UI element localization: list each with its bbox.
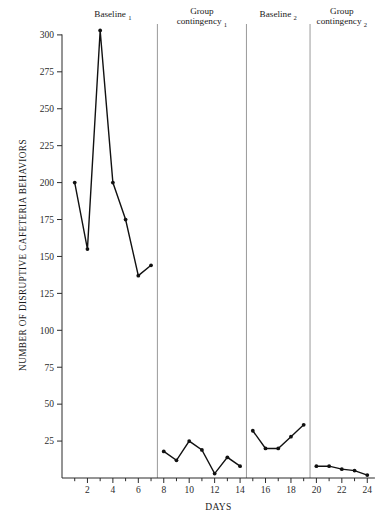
phase-label-1: Baseline 1 (94, 9, 131, 21)
phase-label-3: Baseline 2 (260, 9, 297, 21)
data-point-day-7 (149, 263, 153, 267)
data-point-day-13 (225, 455, 229, 459)
x-tick-label-18: 18 (286, 485, 296, 495)
data-point-day-19 (302, 423, 306, 427)
y-axis-title: NUMBER OF DISRUPTIVE CAFETERIA BEHAVIORS (18, 139, 28, 371)
x-tick-label-20: 20 (312, 485, 322, 495)
phase-label-subscript: 2 (364, 21, 367, 28)
phase-label-subscript: 2 (294, 14, 297, 21)
x-tick-label-12: 12 (210, 485, 220, 495)
y-tick-label-25: 25 (45, 436, 55, 446)
data-point-day-10 (187, 439, 191, 443)
y-tick-label-150: 150 (40, 252, 55, 262)
data-point-day-3 (98, 29, 102, 33)
data-point-day-18 (289, 435, 293, 439)
phase-label-base2: contingency (317, 16, 364, 26)
data-point-day-14 (238, 464, 242, 468)
data-point-day-12 (213, 472, 217, 476)
data-point-day-20 (315, 464, 319, 468)
x-tick-label-8: 8 (161, 485, 166, 495)
x-tick-label-16: 16 (261, 485, 271, 495)
data-point-day-9 (175, 458, 179, 462)
y-tick-label-175: 175 (40, 215, 55, 225)
data-point-day-6 (136, 274, 140, 278)
phase-label-subscript: 1 (128, 14, 131, 21)
phase-label-base2: contingency (177, 16, 224, 26)
data-point-day-11 (200, 448, 204, 452)
y-tick-label-300: 300 (40, 30, 55, 40)
phase-label-2-line1: Group (190, 6, 214, 16)
x-tick-label-10: 10 (184, 485, 194, 495)
data-point-day-5 (124, 218, 128, 222)
data-point-day-22 (340, 467, 344, 471)
x-tick-label-24: 24 (363, 485, 373, 495)
data-point-day-2 (86, 247, 90, 251)
phase-label-4-line1: Group (330, 6, 354, 16)
phase-label-2-line2: contingency 1 (177, 16, 228, 28)
data-point-day-1 (73, 181, 77, 185)
y-tick-label-50: 50 (45, 399, 55, 409)
line-chart: 255075100125150175200225250275300 246810… (0, 0, 379, 532)
y-tick-label-125: 125 (40, 289, 55, 299)
y-tick-label-100: 100 (40, 326, 55, 336)
phase-label-subscript: 1 (224, 21, 227, 28)
x-tick-label-22: 22 (337, 485, 347, 495)
data-point-day-4 (111, 181, 115, 185)
y-tick-label-225: 225 (40, 141, 55, 151)
x-axis-title: DAYS (205, 502, 232, 512)
x-tick-label-14: 14 (235, 485, 245, 495)
phase-label-base: Baseline (94, 9, 128, 19)
phase-label-base: Baseline (260, 9, 294, 19)
figure-container: 255075100125150175200225250275300 246810… (0, 0, 379, 532)
data-point-day-23 (353, 469, 357, 473)
data-point-day-21 (327, 464, 331, 468)
y-tick-label-250: 250 (40, 104, 55, 114)
x-tick-label-6: 6 (136, 485, 141, 495)
phase-label-4-line2: contingency 2 (317, 16, 368, 28)
data-point-day-15 (251, 429, 255, 433)
x-tick-label-4: 4 (111, 485, 116, 495)
chart-background (0, 0, 379, 532)
data-point-day-16 (264, 447, 268, 451)
data-point-day-17 (276, 447, 280, 451)
x-tick-label-2: 2 (85, 485, 90, 495)
y-tick-label-200: 200 (40, 178, 55, 188)
data-point-day-8 (162, 450, 166, 454)
y-tick-label-275: 275 (40, 67, 55, 77)
y-tick-label-75: 75 (45, 363, 55, 373)
data-point-day-24 (365, 473, 369, 477)
